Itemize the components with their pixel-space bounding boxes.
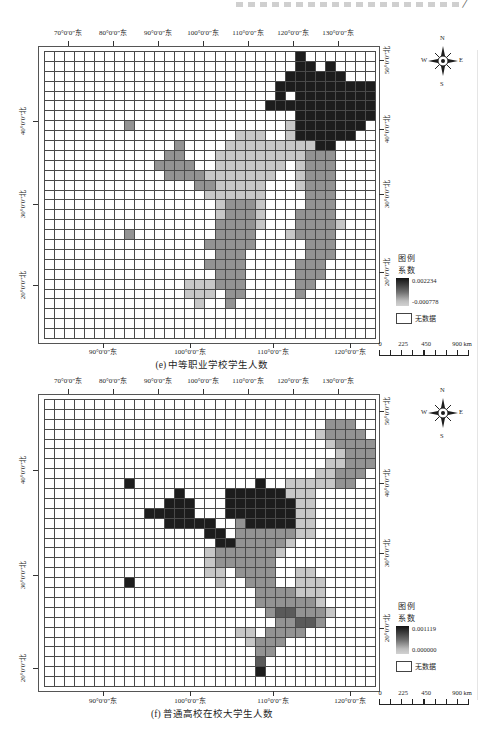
grid-cell: [145, 191, 154, 200]
grid-cell: [55, 260, 64, 269]
grid-cell: [125, 558, 134, 567]
grid-cell: [366, 161, 375, 170]
grid-cell: [356, 410, 365, 419]
grid-cell: [135, 250, 144, 259]
grid-cell: [95, 299, 104, 308]
grid-cell: [336, 161, 345, 170]
grid-cell: [65, 598, 74, 607]
grid-cell: [296, 469, 305, 478]
grid-cell: [246, 62, 255, 71]
axis-tick: [203, 389, 204, 394]
grid-cell: [296, 329, 305, 338]
grid-cell: [266, 121, 275, 130]
axis-tick: [379, 194, 384, 195]
grid-cell: [276, 161, 285, 170]
grid-cell: [115, 588, 124, 597]
grid-cell: [155, 210, 164, 219]
grid-cell: [336, 82, 345, 91]
grid-cell: [95, 400, 104, 409]
grid-cell: [266, 489, 275, 498]
compass-star-icon: [426, 396, 460, 430]
grid-cell: [195, 62, 204, 71]
grid-cell: [175, 151, 184, 160]
grid-cell: [296, 400, 305, 409]
grid-cell: [205, 449, 214, 458]
grid-cell: [95, 667, 104, 676]
grid-cell: [296, 181, 305, 190]
grid-cell: [175, 161, 184, 170]
grid-cell: [236, 618, 245, 627]
grid-cell: [216, 608, 225, 617]
grid-cell: [55, 161, 64, 170]
grid-cell: [246, 290, 255, 299]
grid-cell: [95, 270, 104, 279]
axis-label-lon: 130°0′0″东: [322, 27, 354, 37]
grid-cell: [145, 677, 154, 686]
grid-cell: [256, 62, 265, 71]
grid-cell: [356, 270, 365, 279]
axis-label-lon: 80°0′0″东: [99, 375, 127, 385]
grid-cell: [165, 459, 174, 468]
grid-cell: [236, 131, 245, 140]
grid-cell: [246, 250, 255, 259]
grid-cell: [205, 240, 214, 249]
grid-cell: [205, 141, 214, 150]
grid-cell: [95, 131, 104, 140]
grid-cell: [246, 141, 255, 150]
grid-cell: [105, 72, 114, 81]
grid-cell: [95, 489, 104, 498]
grid-cell: [75, 618, 84, 627]
grid-cell: [216, 638, 225, 647]
grid-cell: [65, 509, 74, 518]
grid-cell: [85, 608, 94, 617]
grid-cell: [85, 529, 94, 538]
grid-cell: [145, 499, 154, 508]
grid-cell: [216, 111, 225, 120]
grid-cell: [65, 430, 74, 439]
grid-cell: [256, 200, 265, 209]
grid-cell: [346, 161, 355, 170]
grid-cell: [75, 141, 84, 150]
grid-cell: [316, 290, 325, 299]
grid-cell: [296, 62, 305, 71]
grid-cell: [185, 171, 194, 180]
grid-cell: [296, 161, 305, 170]
grid-cell: [125, 250, 134, 259]
grid-cell: [125, 677, 134, 686]
grid-cell: [276, 608, 285, 617]
grid-cell: [105, 210, 114, 219]
grid-cell: [246, 319, 255, 328]
grid-cell: [326, 479, 335, 488]
scalebar-label: 0: [378, 689, 381, 696]
grid-cell: [336, 270, 345, 279]
axis-label-lon: 70°0′0″东: [54, 27, 82, 37]
grid-cell: [306, 420, 315, 429]
grid-cell: [336, 529, 345, 538]
grid-cell: [135, 72, 144, 81]
axis-label-lon: 100°0′0″东: [174, 695, 206, 705]
grid-cell: [125, 647, 134, 656]
grid-cell: [85, 410, 94, 419]
grid-cell: [256, 260, 265, 269]
legend-min-value: -0.000778: [412, 298, 439, 305]
grid-cell: [306, 638, 315, 647]
axis-tick: [103, 343, 104, 348]
grid-cell: [205, 191, 214, 200]
grid-cell: [316, 270, 325, 279]
grid-cell: [165, 309, 174, 318]
grid-cell: [356, 489, 365, 498]
grid-cell: [195, 440, 204, 449]
grid-cell: [246, 92, 255, 101]
panel-e-caption: (e) 中等职业学校学生人数: [156, 357, 269, 371]
grid-cell: [75, 539, 84, 548]
grid-cell: [216, 131, 225, 140]
grid-cell: [286, 329, 295, 338]
grid-cell: [296, 647, 305, 656]
grid-cell: [266, 628, 275, 637]
legend-subtitle: 系数: [398, 264, 416, 275]
grid-cell: [95, 410, 104, 419]
grid-cell: [85, 618, 94, 627]
grid-cell: [105, 171, 114, 180]
grid-cell: [175, 509, 184, 518]
grid-cell: [366, 598, 375, 607]
